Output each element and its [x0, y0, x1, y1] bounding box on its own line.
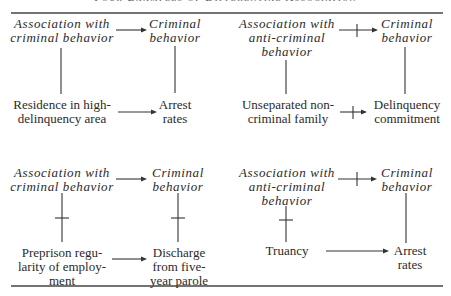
tl-indicator-residence: Residence in high- delinquency area: [10, 98, 114, 126]
bl-concept-criminal-behavior: Criminal behavior: [148, 166, 208, 194]
tr-indicator-unseparated-family: Unseparated non- criminal family: [235, 98, 341, 126]
br-concept-criminal-behavior: Criminal behavior: [377, 166, 437, 194]
tl-indicator-arrest-rates: Arrest rates: [150, 98, 200, 126]
bl-indicator-parole-discharge: Discharge from five- year parole: [148, 246, 210, 288]
tl-concept-criminal-behavior: Criminal behavior: [145, 17, 205, 45]
tr-concept-criminal-behavior: Criminal behavior: [377, 17, 437, 45]
bl-concept-association: Association with criminal behavior: [10, 166, 114, 194]
br-concept-association-anti: Association with anti-criminal behavior: [235, 166, 339, 208]
bl-indicator-preprison-employment: Preprison regu- larity of employ- ment: [12, 246, 112, 288]
br-indicator-truancy: Truancy: [255, 244, 319, 258]
tl-concept-association: Association with criminal behavior: [10, 17, 114, 45]
tr-indicator-delinquency-commitment: Delinquency commitment: [367, 98, 447, 126]
br-indicator-arrest-rates: Arrest rates: [388, 244, 432, 272]
tr-concept-association-anti: Association with anti-criminal behavior: [235, 17, 339, 59]
